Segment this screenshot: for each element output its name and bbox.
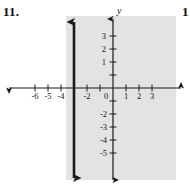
figure-container: 11. 1 xyxy=(0,0,190,192)
x-tick-label-3: 3 xyxy=(150,91,154,101)
origin-label: 0 xyxy=(104,91,108,101)
y-tick-label-neg3: -3 xyxy=(100,122,107,132)
x-tick-label-1: 1 xyxy=(124,91,128,101)
y-tick-label-1: 1 xyxy=(102,57,106,67)
y-axis-label: y xyxy=(116,5,122,16)
x-tick-label-neg4: -4 xyxy=(57,91,65,101)
coordinate-graph: y 0 -6 -5 -4 -2 1 2 3 3 2 1 -2 -3 -4 -5 xyxy=(0,0,190,192)
x-tick-label-neg5: -5 xyxy=(44,91,51,101)
y-tick-label-neg2: -2 xyxy=(100,109,107,119)
y-tick-label-2: 2 xyxy=(102,44,106,54)
x-tick-label-neg6: -6 xyxy=(31,91,38,101)
x-tick-label-2: 2 xyxy=(137,91,141,101)
x-tick-label-neg2: -2 xyxy=(83,91,90,101)
y-axis xyxy=(110,19,117,180)
y-tick-label-neg5: -5 xyxy=(100,148,107,158)
y-tick-label-neg4: -4 xyxy=(100,135,108,145)
y-tick-label-3: 3 xyxy=(102,31,106,41)
